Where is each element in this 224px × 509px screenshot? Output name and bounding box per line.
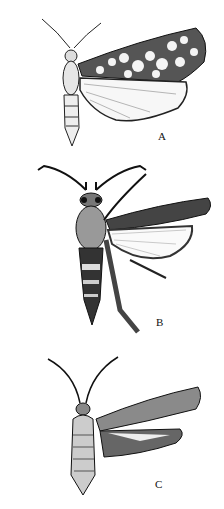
moth-a-drawing xyxy=(0,0,224,160)
moth-b-figure: B xyxy=(0,160,224,335)
moth-a-figure: A xyxy=(0,0,224,160)
panel-label-b: B xyxy=(156,316,163,328)
panel-label-c: C xyxy=(155,478,162,490)
moth-b-drawing xyxy=(0,160,224,335)
panel-label-a: A xyxy=(158,130,166,142)
moth-c-figure: C xyxy=(0,335,224,509)
moth-c-drawing xyxy=(0,335,224,509)
